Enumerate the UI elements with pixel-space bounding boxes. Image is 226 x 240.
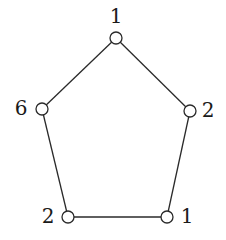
edges	[42, 38, 190, 217]
edge-left-top	[42, 38, 116, 109]
label-top: 1	[110, 4, 123, 28]
edge-bottom-left-left	[42, 109, 68, 217]
node-bottom-right	[161, 211, 173, 223]
node-left	[36, 103, 48, 115]
node-bottom-left	[62, 211, 74, 223]
label-bottom-right: 1	[181, 204, 194, 228]
label-bottom-left: 2	[42, 204, 55, 228]
edge-right-bottom-right	[167, 111, 190, 217]
edge-top-right	[116, 38, 190, 111]
label-right: 2	[202, 98, 215, 122]
label-left: 6	[15, 96, 28, 120]
node-top	[110, 32, 122, 44]
node-right	[184, 105, 196, 117]
pentagon-graph: 1 2 1 2 6	[0, 0, 226, 240]
